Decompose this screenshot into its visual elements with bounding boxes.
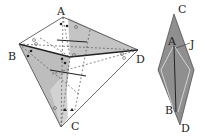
- label-C-left: C: [71, 120, 79, 133]
- label-B-right: B: [165, 104, 173, 117]
- label-D-right: D: [181, 122, 190, 135]
- left-figure: A B C D: [8, 5, 145, 133]
- origami-diagram: A B C D C A J B D: [0, 0, 205, 138]
- label-J-right: J: [189, 38, 194, 51]
- label-B-left: B: [8, 50, 16, 63]
- label-C-right: C: [178, 3, 186, 16]
- right-figure: C A J B D: [158, 3, 194, 135]
- label-D-left: D: [136, 53, 145, 66]
- label-A-left: A: [56, 5, 66, 18]
- label-A-right: A: [167, 35, 177, 48]
